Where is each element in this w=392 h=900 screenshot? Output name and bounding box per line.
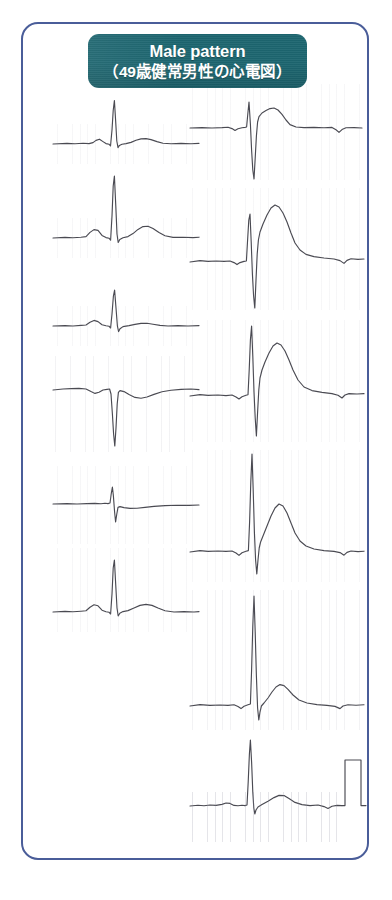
ecg-strip-lead-iii [53, 268, 203, 346]
ecg-strip-lead-avl [53, 466, 203, 544]
title-banner: Male pattern （49歳健常男性の心電図） [88, 34, 307, 88]
ecg-strip-lead-v1 [190, 84, 367, 180]
ecg-strip-lead-i [53, 90, 203, 164]
ecg-strip-lead-v4 [190, 450, 367, 582]
ecg-column-limb-leads [53, 72, 203, 858]
ecg-strip-lead-v5 [190, 590, 367, 730]
ecg-strip-lead-avf [53, 548, 203, 632]
title-main: Male pattern [150, 42, 246, 61]
ecg-strip-lead-v2 [190, 188, 367, 310]
ecg-strip-lead-v6 [190, 738, 367, 858]
ecg-figure: Male pattern （49歳健常男性の心電図） [0, 0, 392, 900]
ecg-column-precordial-leads [190, 72, 367, 858]
ecg-sheet [23, 72, 367, 858]
ecg-strip-lead-ii [53, 172, 203, 258]
title-subtitle: （49歳健常男性の心電図） [103, 61, 291, 82]
ecg-strip-lead-v3 [190, 320, 367, 442]
ecg-strip-lead-avr [53, 356, 203, 452]
